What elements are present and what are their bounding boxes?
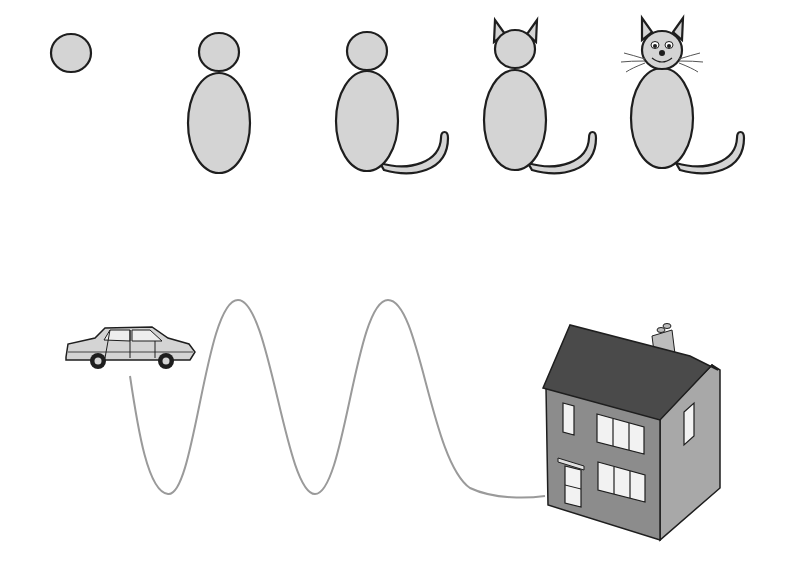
cat-step-1 [51, 34, 91, 72]
cat-step-4 [484, 20, 596, 173]
car-icon [66, 327, 195, 369]
cat-step-3 [336, 32, 448, 173]
cat-step-5 [621, 18, 744, 173]
illustration-canvas [0, 0, 788, 567]
cat-step-2 [188, 33, 250, 173]
house-icon [543, 324, 720, 541]
winding-path [130, 300, 545, 498]
